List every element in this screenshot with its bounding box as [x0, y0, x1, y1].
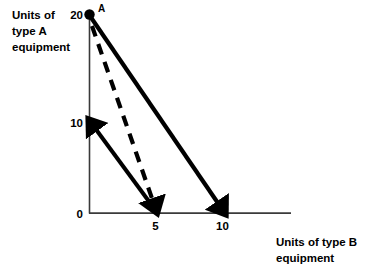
series-new-budget-line	[92, 26, 155, 207]
y-axis-title-line-3: equipment	[12, 41, 70, 53]
series-compensated-budget-line	[92, 124, 156, 211]
x-axis-title: Units of type B equipment	[276, 236, 357, 264]
y-axis-title-line-1: Units of	[12, 9, 55, 21]
x-tick-label-5: 5	[152, 220, 159, 232]
budget-line-diagram: A 20 10 0 5 10 Units of type A equipment…	[0, 0, 365, 274]
y-tick-label-10: 10	[70, 117, 83, 129]
y-tick-label-20: 20	[70, 9, 83, 21]
point-a-label: A	[98, 3, 105, 14]
y-axis-title: Units of type A equipment	[12, 9, 70, 53]
y-axis-title-line-2: type A	[12, 25, 47, 37]
series-original-budget-line	[90, 16, 222, 209]
x-axis-title-line-1: Units of type B	[276, 236, 357, 248]
axes	[89, 13, 291, 214]
y-tick-label-0: 0	[77, 208, 83, 220]
x-axis-title-line-2: equipment	[276, 252, 334, 264]
tick-marks	[90, 122, 223, 213]
point-a-marker	[84, 9, 94, 19]
diagram-canvas: A 20 10 0 5 10 Units of type A equipment…	[0, 0, 365, 274]
x-tick-label-10: 10	[216, 220, 229, 232]
